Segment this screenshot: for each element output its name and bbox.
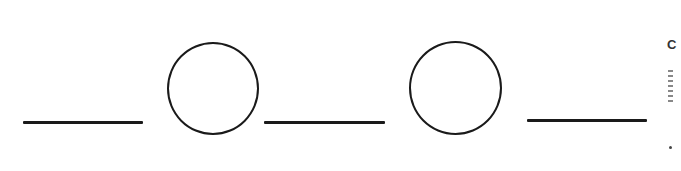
right-edge-cutoff-text: C [667, 38, 681, 51]
blank-line-3[interactable] [527, 119, 647, 122]
circle-slot-2[interactable] [409, 41, 502, 135]
circle-slot-1[interactable] [167, 42, 259, 135]
cutoff-glyph: C [667, 38, 681, 51]
blank-line-1[interactable] [23, 121, 143, 124]
blank-line-2[interactable] [264, 121, 385, 124]
cutoff-dot [669, 146, 672, 149]
cutoff-text-fragment [668, 70, 673, 102]
